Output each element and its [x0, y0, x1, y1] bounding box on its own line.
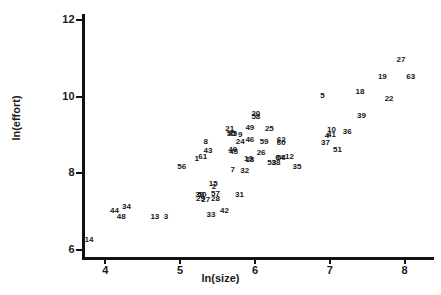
data-point-label: 43 — [204, 147, 213, 155]
data-point-label: 58 — [251, 113, 260, 121]
plot-area: 1444344813356161438334230502927285715231… — [83, 14, 431, 258]
x-axis-tick-label: 7 — [318, 264, 342, 276]
data-point-label: 18 — [355, 88, 364, 96]
data-point-label: 48 — [117, 213, 126, 221]
x-axis-tick-label: 6 — [243, 264, 267, 276]
data-point-label: 8 — [204, 138, 208, 146]
y-axis-tick-label: 6 — [47, 243, 75, 255]
x-axis-title: ln(size) — [0, 272, 441, 284]
data-point-label: 2 — [212, 183, 216, 191]
data-point-label: 45 — [229, 148, 238, 156]
y-axis-title: ln(effort) — [10, 58, 22, 178]
data-point-label: 46 — [245, 136, 254, 144]
x-axis-tick-label: 4 — [93, 264, 117, 276]
data-point-label: 26 — [257, 149, 266, 157]
data-point-label: 42 — [220, 207, 229, 215]
data-point-label: 3 — [164, 213, 168, 221]
data-point-label: 63 — [406, 73, 415, 81]
data-point-label: 33 — [207, 211, 216, 219]
data-point-label: 60 — [277, 139, 286, 147]
data-point-label: 12 — [285, 153, 294, 161]
data-point-label: 34 — [122, 203, 131, 211]
data-point-label: 35 — [293, 163, 302, 171]
data-point-label: 14 — [85, 236, 94, 244]
data-point-label: 37 — [321, 139, 330, 147]
data-point-label: 22 — [385, 95, 394, 103]
data-point-label: 56 — [177, 163, 186, 171]
data-point-label: 36 — [343, 128, 352, 136]
x-axis-tick-label: 8 — [393, 264, 417, 276]
data-point-label: 18 — [245, 156, 254, 164]
data-point-label: 27 — [397, 56, 406, 64]
y-axis-tick-label: 8 — [47, 166, 75, 178]
y-axis-tick-label: 12 — [47, 13, 75, 25]
data-point-label: 10 — [327, 126, 336, 134]
y-axis-tick — [76, 19, 83, 21]
y-axis-tick-label: 10 — [47, 90, 75, 102]
data-point-label: 27 — [201, 196, 210, 204]
x-axis-tick-label: 5 — [168, 264, 192, 276]
data-point-label: 31 — [235, 191, 244, 199]
data-point-label: 7 — [230, 166, 234, 174]
data-point-label: 32 — [240, 167, 249, 175]
data-point-label: 25 — [265, 125, 274, 133]
data-point-label: 51 — [333, 146, 342, 154]
data-point-label: 39 — [357, 112, 366, 120]
scatter-plot-figure: ln(effort) ln(size) 68101245678 14443448… — [0, 0, 441, 295]
data-point-label: 24 — [236, 138, 245, 146]
data-point-label: 5 — [320, 92, 324, 100]
y-axis-tick — [76, 172, 83, 174]
data-point-label: 59 — [260, 138, 269, 146]
y-axis-tick — [76, 96, 83, 98]
data-point-label: 19 — [378, 73, 387, 81]
data-point-label: 49 — [245, 124, 254, 132]
y-axis-tick — [76, 249, 83, 251]
data-point-label: 13 — [150, 213, 159, 221]
